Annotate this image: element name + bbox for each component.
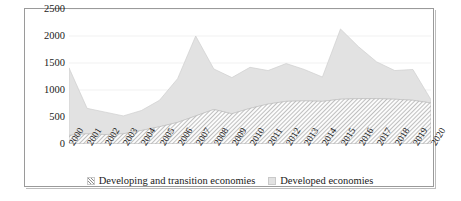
legend-label-developing: Developing and transition economies (99, 175, 256, 186)
hatch-swatch-icon (87, 177, 95, 185)
y-tick-label: 2000 (25, 31, 65, 42)
y-axis-labels: 05001000150020002500 (23, 9, 65, 188)
legend-label-developed: Developed economies (280, 175, 373, 186)
x-tick-label: 2020 (429, 126, 448, 147)
chart-frame: 05001000150020002500 2000200120022003200… (24, 8, 434, 187)
y-tick-label: 500 (25, 112, 65, 123)
y-tick-label: 0 (25, 139, 65, 150)
legend-item-developing: Developing and transition economies (87, 175, 256, 186)
solid-swatch-icon (268, 177, 276, 185)
x-axis-labels: 2000200120022003200420052006200720082009… (69, 140, 429, 180)
y-tick-label: 1500 (25, 58, 65, 69)
legend-item-developed: Developed economies (268, 175, 373, 186)
chart-legend: Developing and transition economies Deve… (25, 175, 435, 186)
y-tick-label: 2500 (25, 4, 65, 15)
stacked-area-chart (69, 9, 431, 144)
chart-plot-wrapper: 05001000150020002500 2000200120022003200… (25, 9, 435, 188)
y-tick-label: 1000 (25, 85, 65, 96)
